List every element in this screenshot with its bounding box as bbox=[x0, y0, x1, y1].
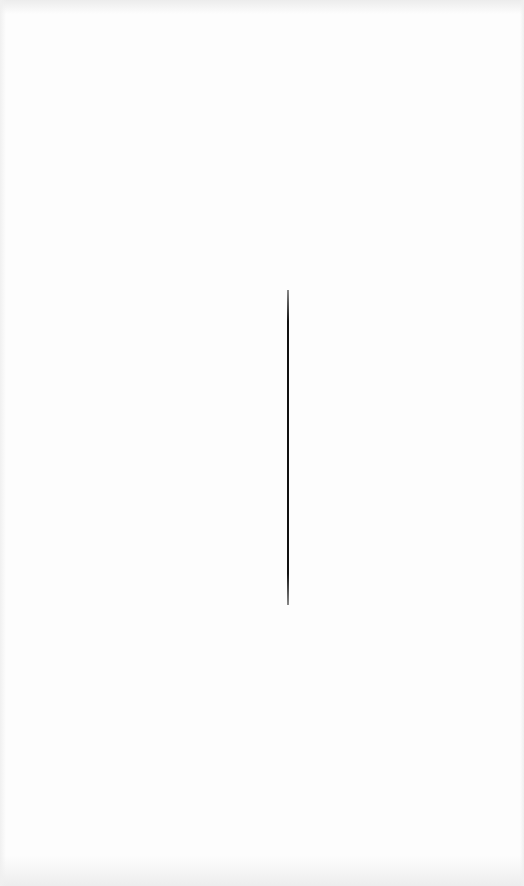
top-edge-noise bbox=[0, 0, 524, 14]
right-edge-noise bbox=[520, 0, 524, 886]
bottom-edge-noise bbox=[0, 856, 524, 886]
left-edge-noise bbox=[0, 0, 6, 886]
vertical-divider-line bbox=[287, 290, 289, 605]
